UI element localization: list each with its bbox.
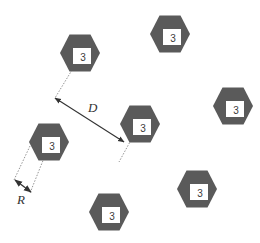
r-extension-line-2 (30, 158, 44, 193)
hexagon-node: 3 (89, 194, 129, 231)
hexagon-label: 3 (233, 105, 239, 116)
hexagon-node: 3 (29, 124, 69, 161)
hexagon-node: 3 (177, 171, 217, 208)
radius-label-r: R (16, 192, 25, 207)
hexagon-label: 3 (197, 188, 203, 199)
hexagon-nodes: 3333333 (29, 16, 253, 231)
hexagon-label: 3 (49, 141, 55, 152)
r-extension-line-1 (14, 146, 30, 180)
hexagon-node: 3 (150, 16, 190, 53)
hexagon-node: 3 (60, 35, 100, 72)
hexagon-distance-diagram: 3333333 D R (0, 0, 260, 243)
hexagon-node: 3 (213, 88, 253, 125)
hexagon-label: 3 (170, 33, 176, 44)
hexagon-label: 3 (80, 52, 86, 63)
hexagon-label: 3 (140, 123, 146, 134)
d-extension-line-top (55, 70, 72, 98)
hexagon-label: 3 (109, 211, 115, 222)
hexagon-node: 3 (120, 106, 160, 143)
distance-label-d: D (87, 100, 98, 115)
d-extension-line-bottom (119, 140, 131, 162)
radius-arrow (15, 180, 31, 192)
